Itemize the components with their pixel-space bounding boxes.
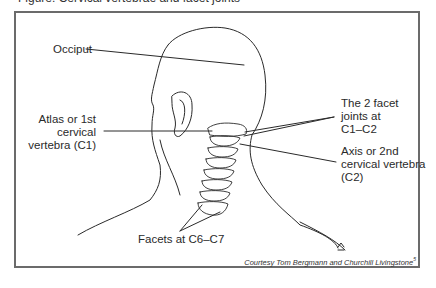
- label-axis-line3: (C2): [341, 171, 363, 184]
- label-occiput: Occiput: [53, 43, 92, 56]
- label-facet-joints-line1: The 2 facet: [341, 97, 399, 110]
- label-facet-joints-line3: C1–C2: [341, 123, 377, 136]
- leader-c6c7-1: [180, 205, 202, 231]
- shoulder-right: [300, 222, 345, 250]
- label-facet-joints-line2: joints at: [341, 110, 381, 123]
- leader-occiput: [86, 49, 244, 65]
- credit-reference: 5: [413, 256, 416, 262]
- leader-c6c7-2: [180, 212, 220, 231]
- image-credit: Courtesy Tom Bergmann and Churchill Livi…: [244, 256, 416, 267]
- label-facets-c6-c7: Facets at C6–C7: [138, 233, 224, 246]
- label-atlas-line3: vertebra (C1): [20, 139, 96, 152]
- cervical-spine: [198, 123, 247, 215]
- neck-front: [160, 140, 180, 195]
- label-atlas-line1: Atlas or 1st: [34, 113, 96, 126]
- credit-text: Courtesy Tom Bergmann and Churchill Livi…: [244, 258, 413, 267]
- leader-axis: [240, 144, 336, 162]
- ear-icon: [172, 92, 192, 137]
- label-axis-line2: cervical vertebra: [341, 158, 425, 171]
- label-axis-line1: Axis or 2nd: [341, 145, 399, 158]
- label-atlas-line2: cervical: [34, 126, 96, 139]
